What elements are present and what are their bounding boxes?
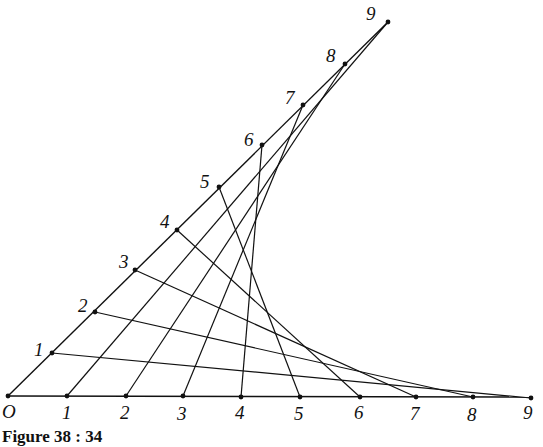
diagonal-label-9: 9 [366, 3, 376, 24]
axis-point-3 [181, 394, 186, 399]
diagonal-point-2 [93, 310, 98, 315]
diagonal-label-4: 4 [160, 211, 170, 232]
chord-5-to-5 [219, 187, 300, 397]
chord-8-to-2 [126, 64, 345, 396]
diagonal-point-4 [175, 228, 180, 233]
diagonal-point-8 [343, 62, 348, 67]
axis-label-8: 8 [467, 404, 477, 425]
axis-label-3: 3 [176, 403, 187, 424]
diagonal-point-5 [217, 185, 222, 190]
origin-label: O [2, 401, 16, 422]
diagonal-point-9 [386, 20, 391, 25]
origin-point [6, 394, 11, 399]
base-lines [8, 22, 531, 397]
chord-4-to-6 [177, 230, 360, 397]
chord-6-to-4 [241, 145, 262, 397]
diagonal-point-1 [50, 351, 55, 356]
axis-label-4: 4 [235, 402, 245, 423]
axis-label-5: 5 [294, 403, 304, 424]
diagonal-label-3: 3 [118, 251, 129, 272]
chord-9-to-1 [67, 22, 388, 396]
axis-line [8, 396, 531, 397]
diagonal-label-2: 2 [78, 295, 88, 316]
axis-label-6: 6 [354, 402, 364, 423]
axis-point-1 [65, 394, 70, 399]
diagonal-point-7 [301, 103, 306, 108]
axis-point-5 [298, 395, 303, 400]
diagonal-label-7: 7 [285, 87, 296, 108]
axis-point-7 [414, 395, 419, 400]
axis-point-8 [471, 395, 476, 400]
figure-caption: Figure 38 : 34 [2, 427, 102, 447]
labels: O123456789123456789 [2, 3, 533, 425]
diagonal-line [8, 22, 388, 396]
chord-7-to-3 [183, 105, 303, 396]
axis-label-7: 7 [410, 403, 421, 424]
axis-point-6 [358, 395, 363, 400]
axis-point-9 [529, 396, 534, 401]
diagonal-label-6: 6 [244, 129, 254, 150]
axis-label-9: 9 [523, 402, 533, 423]
points [6, 20, 534, 401]
diagonal-point-6 [260, 143, 265, 148]
axis-label-2: 2 [120, 402, 130, 423]
diagonal-label-1: 1 [34, 339, 44, 360]
diagonal-label-8: 8 [326, 45, 336, 66]
diagonal-point-3 [133, 268, 138, 273]
chord-lines [52, 22, 531, 398]
axis-label-1: 1 [62, 402, 72, 423]
axis-point-2 [124, 394, 129, 399]
axis-point-4 [239, 395, 244, 400]
diagonal-label-5: 5 [200, 171, 210, 192]
